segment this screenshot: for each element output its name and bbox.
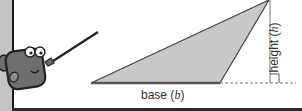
pointer-stick	[50, 32, 98, 63]
cartoon-character-icon	[0, 47, 54, 90]
height-label: height (h)	[267, 22, 282, 72]
height-variable: h	[267, 26, 281, 32]
base-label: base (b)	[141, 88, 184, 103]
base-variable: b	[174, 88, 180, 102]
triangle-shape	[91, 0, 269, 83]
diagram-frame: base (b) height (h)	[0, 0, 302, 111]
height-label-text: height	[267, 40, 281, 73]
base-label-text: base	[141, 88, 167, 102]
right-angle-marker	[270, 74, 279, 83]
